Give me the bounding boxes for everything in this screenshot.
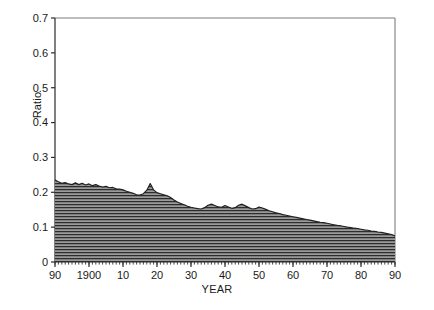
y-tick-label: 0.2 [33, 186, 48, 198]
x-tick-label: 70 [321, 269, 333, 281]
y-tick-label: 0 [42, 256, 48, 268]
x-tick-label: 40 [219, 269, 231, 281]
x-axis-title: YEAR [0, 283, 434, 295]
figure-container: 00.10.20.30.40.50.60.7 90190010203040506… [0, 0, 434, 310]
x-tick-label: 60 [287, 269, 299, 281]
x-tick-label: 90 [389, 269, 401, 281]
x-tick-label: 10 [117, 269, 129, 281]
y-axis-title: Ratio [31, 70, 43, 140]
x-tick-label: 20 [151, 269, 163, 281]
page-text-fragment [14, 300, 422, 308]
series-area-group [55, 180, 395, 262]
x-axis-tick-labels: 901900102030405060708090 [49, 269, 401, 281]
x-tick-label: 80 [355, 269, 367, 281]
x-tick-label: 30 [185, 269, 197, 281]
area-chart-plot: 00.10.20.30.40.50.60.7 90190010203040506… [0, 0, 434, 310]
x-tick-label: 50 [253, 269, 265, 281]
y-tick-label: 0.7 [33, 12, 48, 24]
x-tick-label: 1900 [77, 269, 101, 281]
area-series-ratio [55, 180, 395, 262]
x-tick-label: 90 [49, 269, 61, 281]
y-tick-label: 0.1 [33, 221, 48, 233]
y-tick-label: 0.6 [33, 47, 48, 59]
y-tick-label: 0.3 [33, 151, 48, 163]
